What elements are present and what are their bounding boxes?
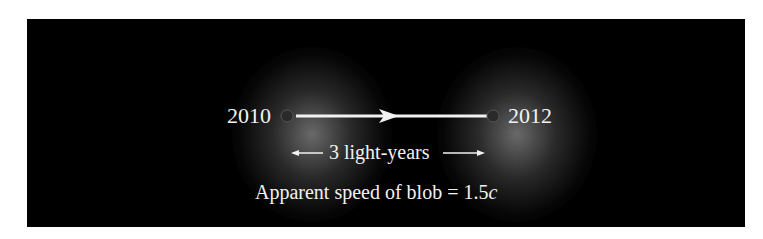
diagram-panel: 2010 2012 3 light-years Apparent speed o… bbox=[27, 19, 745, 227]
start-year-label: 2010 bbox=[227, 105, 271, 127]
speed-label: Apparent speed of blob = 1.5c bbox=[255, 182, 497, 202]
arrow-right-icon bbox=[477, 150, 485, 156]
speed-label-prefix: Apparent speed of blob = 1.5 bbox=[255, 181, 488, 203]
arrow-left-icon bbox=[291, 150, 299, 156]
blob-marker-2012 bbox=[487, 110, 499, 122]
end-year-label: 2012 bbox=[508, 105, 552, 127]
distance-label: 3 light-years bbox=[329, 142, 430, 162]
speed-label-unit: c bbox=[488, 181, 497, 203]
blob-marker-2010 bbox=[281, 110, 293, 122]
